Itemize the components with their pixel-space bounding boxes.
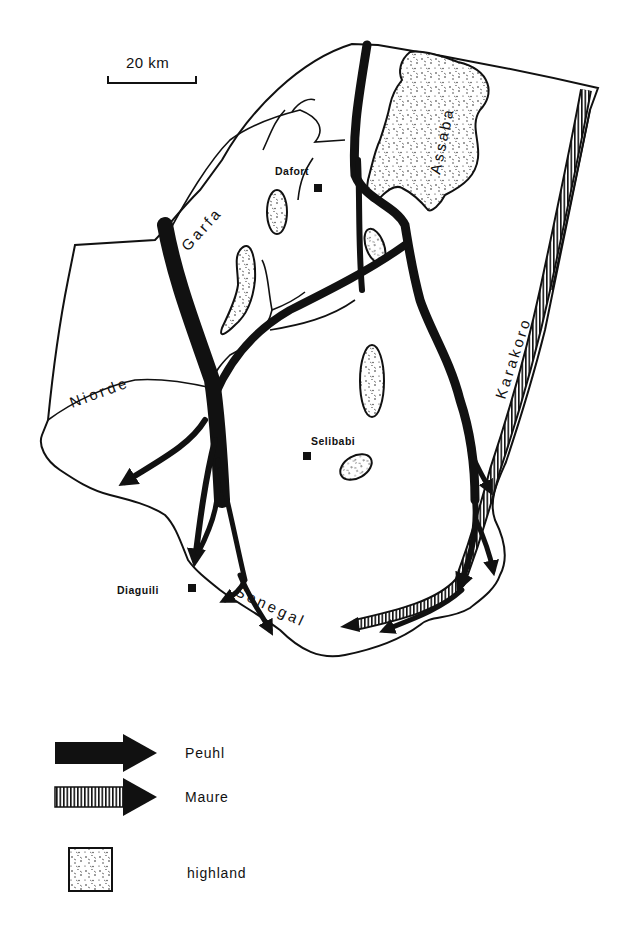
svg-text:highland: highland — [187, 865, 246, 881]
svg-text:Diaguili: Diaguili — [117, 584, 159, 596]
legend-item-peuhl: Peuhl — [55, 734, 225, 772]
svg-text:Dafort: Dafort — [275, 165, 309, 177]
legend-item-highland: highland — [69, 848, 246, 891]
scale-label: 20 km — [126, 54, 169, 71]
svg-text:Peuhl: Peuhl — [185, 745, 225, 761]
migration-map: 20 km Assaba — [0, 0, 641, 951]
svg-text:Maure: Maure — [185, 789, 229, 805]
legend-item-maure: Maure — [55, 778, 229, 816]
legend: Peuhl Maure highland — [55, 734, 246, 891]
highland-patch — [360, 345, 384, 417]
scale-bar: 20 km — [108, 54, 196, 83]
svg-text:Selibabi: Selibabi — [311, 435, 355, 447]
highland-patch — [267, 190, 287, 234]
town-diaguili: Diaguili — [117, 584, 196, 596]
